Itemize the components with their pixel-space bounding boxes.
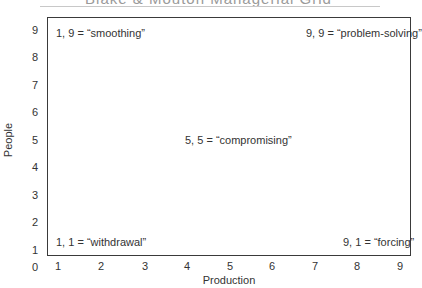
annotation-problem-solving: 9, 9 = “problem-solving” [306, 27, 422, 39]
annotation-compromising: 5, 5 = “compromising” [185, 134, 292, 146]
x-tick-7: 7 [312, 260, 318, 272]
x-tick-2: 2 [98, 260, 104, 272]
y-tick-1: 1 [28, 244, 42, 256]
x-tick-1: 1 [55, 260, 61, 272]
y-tick-2: 2 [28, 216, 42, 228]
y-tick-6: 6 [28, 106, 42, 118]
x-tick-9: 9 [397, 260, 403, 272]
annotation-smoothing: 1, 9 = “smoothing” [56, 27, 145, 39]
x-tick-3: 3 [142, 260, 148, 272]
y-tick-4: 4 [28, 161, 42, 173]
annotation-withdrawal: 1, 1 = “withdrawal” [56, 236, 146, 248]
y-tick-9: 9 [28, 24, 42, 36]
y-tick-7: 7 [28, 79, 42, 91]
x-axis-title: Production [203, 274, 256, 286]
y-axis-title: People [2, 123, 14, 157]
y-tick-0: 0 [28, 261, 42, 273]
y-tick-3: 3 [28, 189, 42, 201]
title-divider [40, 6, 380, 7]
y-tick-5: 5 [28, 134, 42, 146]
y-tick-8: 8 [28, 51, 42, 63]
x-tick-8: 8 [354, 260, 360, 272]
x-tick-5: 5 [227, 260, 233, 272]
annotation-forcing: 9, 1 = “forcing” [343, 236, 414, 248]
x-tick-4: 4 [184, 260, 190, 272]
x-tick-6: 6 [269, 260, 275, 272]
